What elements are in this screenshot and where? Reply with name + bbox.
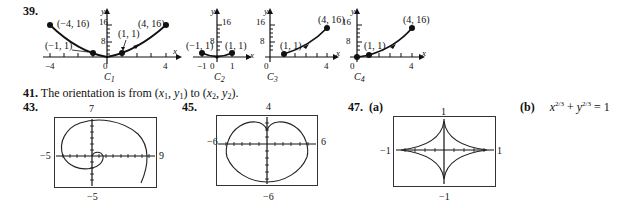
problem-47b: (b) x2/3 + y2/3 = 1: [520, 100, 610, 115]
